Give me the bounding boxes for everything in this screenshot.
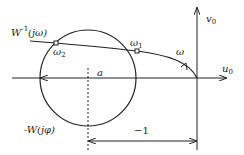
u0-label: u0 <box>222 64 233 76</box>
curve-label: W-1(jω) <box>11 26 47 38</box>
v0-sub: 0 <box>212 18 216 26</box>
circle-label: -W(jφ) <box>24 125 55 135</box>
v0-label: v0 <box>206 14 216 26</box>
omega2-label: ω2 <box>53 47 66 59</box>
minus-one-label: −1 <box>134 126 149 136</box>
omega1-label: ω1 <box>130 38 143 50</box>
diagram: W-1(jω) ω2 ω1 ω v0 u0 a −1 -W(jφ) <box>0 0 244 155</box>
curve-label-rest: (jω) <box>28 27 47 38</box>
curve-label-main: W <box>11 27 21 38</box>
omega1-sub: 1 <box>138 42 142 50</box>
omega2-sub: 2 <box>61 51 65 59</box>
a-dimension-label: a <box>97 68 103 78</box>
omega2-main: ω <box>53 46 61 57</box>
omega-direction-label: ω <box>176 47 184 57</box>
omega1-main: ω <box>130 37 138 48</box>
curve-direction-arrow-icon <box>181 63 187 70</box>
omega2-marker <box>54 41 58 45</box>
u0-sub: 0 <box>228 68 232 76</box>
